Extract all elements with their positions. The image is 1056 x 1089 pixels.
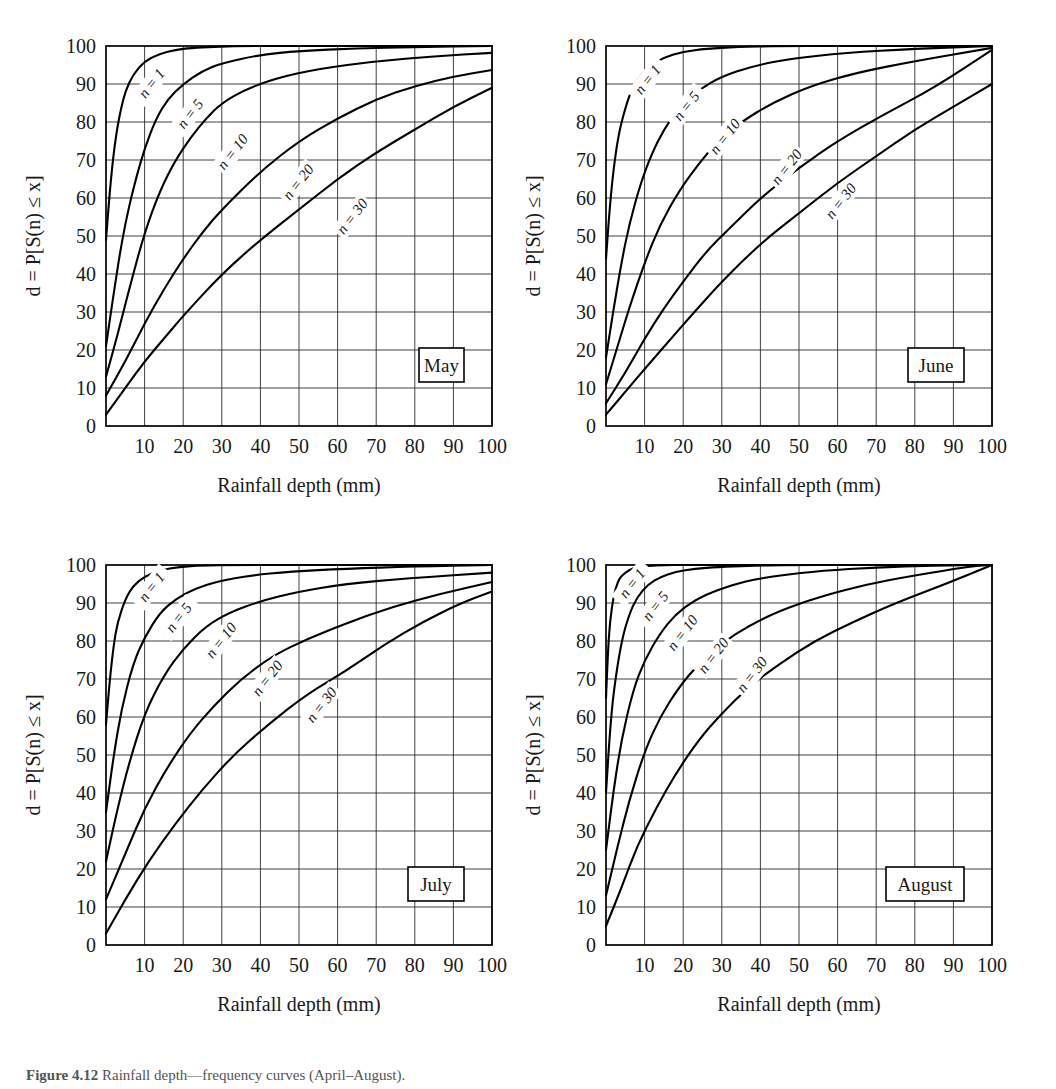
x-tick-label: 50	[289, 435, 309, 457]
y-tick-label: 100	[566, 35, 596, 57]
y-tick-label: 10	[76, 896, 96, 918]
series-label-text: n = 20	[280, 161, 318, 203]
y-tick-label: 60	[576, 706, 596, 728]
y-tick-label: 80	[576, 630, 596, 652]
x-tick-label: 70	[366, 954, 386, 976]
y-tick-label: 10	[76, 377, 96, 399]
x-tick-label: 30	[212, 435, 232, 457]
x-tick-label: 30	[712, 435, 732, 457]
y-tick-label: 90	[76, 73, 96, 95]
y-tick-label: 100	[66, 35, 96, 57]
series-label: n = 1	[130, 60, 173, 107]
y-tick-label: 40	[576, 782, 596, 804]
x-tick-label: 100	[977, 435, 1007, 457]
x-tick-label: 10	[635, 435, 655, 457]
x-tick-label: 10	[135, 954, 155, 976]
series-label-text: n = 10	[214, 131, 252, 173]
y-tick-label: 50	[76, 744, 96, 766]
series-label-text: n = 30	[303, 684, 341, 726]
y-tick-label: 100	[566, 554, 596, 576]
x-tick-label: 30	[712, 954, 732, 976]
y-tick-label: 20	[76, 339, 96, 361]
series-label: n = 5	[169, 90, 212, 137]
y-tick-label: 20	[576, 858, 596, 880]
chart-panel-august: 0102030405060708090100102030405060708090…	[500, 519, 1028, 1054]
x-tick-label: 80	[405, 435, 425, 457]
x-tick-label: 30	[212, 954, 232, 976]
series-label: n = 1	[130, 564, 173, 611]
figure-caption-text: Rainfall depth—frequency curves (April–A…	[102, 1063, 405, 1087]
y-tick-label: 40	[76, 263, 96, 285]
series-label: n = 10	[200, 617, 243, 664]
series-label-text: n = 30	[822, 180, 860, 222]
x-tick-label: 40	[750, 435, 770, 457]
x-tick-label: 80	[905, 954, 925, 976]
y-tick-label: 70	[76, 149, 96, 171]
y-tick-label: 70	[576, 668, 596, 690]
y-tick-label: 0	[586, 415, 596, 437]
y-tick-label: 30	[576, 301, 596, 323]
series-label-text: n = 20	[249, 657, 287, 699]
chart-panel-may: 0102030405060708090100102030405060708090…	[0, 0, 528, 535]
x-tick-label: 50	[789, 954, 809, 976]
y-axis-label: d = P[S(n) ≤ x]	[522, 694, 545, 815]
y-tick-label: 90	[576, 592, 596, 614]
y-tick-label: 30	[76, 820, 96, 842]
series-label-text: n = 30	[334, 195, 372, 237]
series-label: n = 1	[626, 56, 669, 103]
x-tick-label: 50	[289, 954, 309, 976]
x-axis-label: Rainfall depth (mm)	[217, 993, 380, 1016]
x-tick-label: 60	[828, 435, 848, 457]
y-tick-label: 0	[586, 934, 596, 956]
month-label-text: August	[898, 874, 954, 895]
y-tick-label: 50	[576, 744, 596, 766]
x-tick-label: 20	[173, 435, 193, 457]
figure-rainfall-depth-frequency: 0102030405060708090100102030405060708090…	[0, 0, 1056, 1089]
y-axis-label: d = P[S(n) ≤ x]	[522, 175, 545, 296]
x-tick-label: 40	[750, 954, 770, 976]
x-axis-label: Rainfall depth (mm)	[717, 474, 880, 497]
x-tick-label: 80	[405, 954, 425, 976]
month-label-text: July	[420, 874, 452, 895]
x-tick-label: 70	[366, 435, 386, 457]
y-tick-label: 0	[86, 934, 96, 956]
series-label: n = 30	[819, 178, 862, 225]
y-tick-label: 90	[76, 592, 96, 614]
chart-svg-july: 0102030405060708090100102030405060708090…	[0, 519, 528, 1054]
chart-panel-july: 0102030405060708090100102030405060708090…	[0, 519, 528, 1054]
x-axis-label: Rainfall depth (mm)	[217, 474, 380, 497]
x-tick-label: 80	[905, 435, 925, 457]
x-tick-label: 50	[789, 435, 809, 457]
y-tick-label: 80	[576, 111, 596, 133]
y-tick-label: 30	[76, 301, 96, 323]
x-tick-label: 90	[943, 435, 963, 457]
y-tick-label: 40	[76, 782, 96, 804]
x-tick-label: 60	[328, 954, 348, 976]
y-axis-label: d = P[S(n) ≤ x]	[22, 694, 45, 815]
x-tick-label: 10	[635, 954, 655, 976]
series-label: n = 5	[665, 83, 708, 130]
x-axis-label: Rainfall depth (mm)	[717, 993, 880, 1016]
x-tick-label: 60	[828, 954, 848, 976]
chart-svg-may: 0102030405060708090100102030405060708090…	[0, 0, 528, 535]
y-tick-label: 60	[76, 706, 96, 728]
month-label-text: May	[424, 355, 459, 376]
y-tick-label: 60	[76, 187, 96, 209]
series-label: n = 10	[211, 128, 254, 175]
y-tick-label: 20	[576, 339, 596, 361]
x-tick-label: 40	[250, 954, 270, 976]
y-tick-label: 70	[576, 149, 596, 171]
y-tick-label: 70	[76, 668, 96, 690]
series-label: n = 10	[661, 609, 704, 656]
chart-svg-june: 0102030405060708090100102030405060708090…	[500, 0, 1028, 535]
x-tick-label: 100	[977, 954, 1007, 976]
figure-caption-prefix: Figure 4.12	[26, 1063, 98, 1087]
chart-svg-august: 0102030405060708090100102030405060708090…	[500, 519, 1028, 1054]
series-label: n = 20	[692, 632, 735, 679]
series-label-text: n = 10	[664, 612, 702, 654]
y-tick-label: 30	[576, 820, 596, 842]
x-tick-label: 40	[250, 435, 270, 457]
series-label: n = 10	[704, 113, 747, 160]
x-tick-label: 90	[943, 954, 963, 976]
y-tick-label: 90	[576, 73, 596, 95]
